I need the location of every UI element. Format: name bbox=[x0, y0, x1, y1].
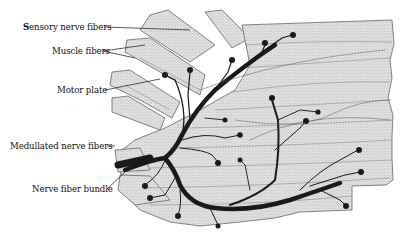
label-motor-plate: Motor plate bbox=[57, 86, 107, 95]
label-nerve-fiber-bundle: Nerve fiber bundle bbox=[32, 185, 113, 194]
muscle-fibers bbox=[110, 10, 394, 226]
label-medullated-nerve-fibers: Medullated nerve fibers bbox=[10, 142, 112, 151]
label-muscle-fibers: Muscle fibers bbox=[52, 47, 110, 56]
label-sensory-nerve-fibers: Sensory nerve fibers bbox=[23, 23, 112, 32]
nerve-muscle-illustration bbox=[0, 0, 405, 242]
